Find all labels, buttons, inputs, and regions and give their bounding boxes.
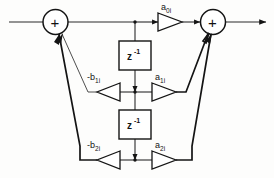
delay-block-1: z -1	[119, 41, 151, 70]
flow-graph-canvas: z -1 z -1 + +	[0, 0, 274, 178]
delay2-label-base: z	[127, 120, 132, 131]
gain-label-a0: a0i	[161, 2, 171, 14]
delay1-box	[119, 41, 151, 70]
b2-label-base: -b	[87, 140, 95, 150]
b1-label-index: i	[99, 77, 100, 84]
junction-dot-top	[133, 20, 136, 23]
svg-text:-b1i: -b1i	[87, 72, 100, 84]
b1-gain-triangle	[97, 83, 120, 101]
a2-label-index: i	[164, 145, 165, 152]
b2-label-index: i	[99, 145, 100, 152]
sum-left-plus-sign: +	[51, 14, 60, 31]
svg-text:-b2i: -b2i	[87, 140, 100, 152]
svg-text:a1i: a1i	[155, 72, 165, 84]
gain-label-b1: -b1i	[87, 72, 100, 84]
output-summing-junction: +	[201, 10, 226, 35]
junction-dot-mid	[133, 90, 136, 93]
b1-label-base: -b	[87, 72, 95, 82]
a0-gain-group	[158, 13, 182, 31]
gain-label-b2: -b2i	[87, 140, 100, 152]
delay1-label-exponent: -1	[134, 48, 140, 55]
delay2-box	[119, 110, 151, 139]
sum-right-plus-sign: +	[208, 14, 217, 31]
signal-flow-diagram: z -1 z -1 + +	[0, 0, 274, 178]
a1-label-index: i	[164, 77, 165, 84]
a0-gain-triangle	[158, 13, 182, 31]
gain-label-a2: a2i	[155, 140, 165, 152]
svg-text:a2i: a2i	[155, 140, 165, 152]
delay1-label-base: z	[127, 51, 132, 62]
input-summing-junction: +	[43, 10, 68, 35]
a1-gain-triangle	[152, 83, 176, 101]
b1-gain-to-sum-left-wire	[62, 34, 97, 92]
junction-dot-bottom	[133, 158, 136, 161]
delay2-label-exponent: -1	[134, 117, 140, 124]
delay-block-2: z -1	[119, 110, 151, 139]
gain-label-a1: a1i	[155, 72, 165, 84]
a0-label-index: i	[170, 7, 171, 14]
b2-gain-triangle	[97, 151, 120, 169]
a2-gain-triangle	[152, 151, 176, 169]
svg-text:a0i: a0i	[161, 2, 171, 14]
a2-gain-to-sum-right-wire	[176, 34, 211, 160]
